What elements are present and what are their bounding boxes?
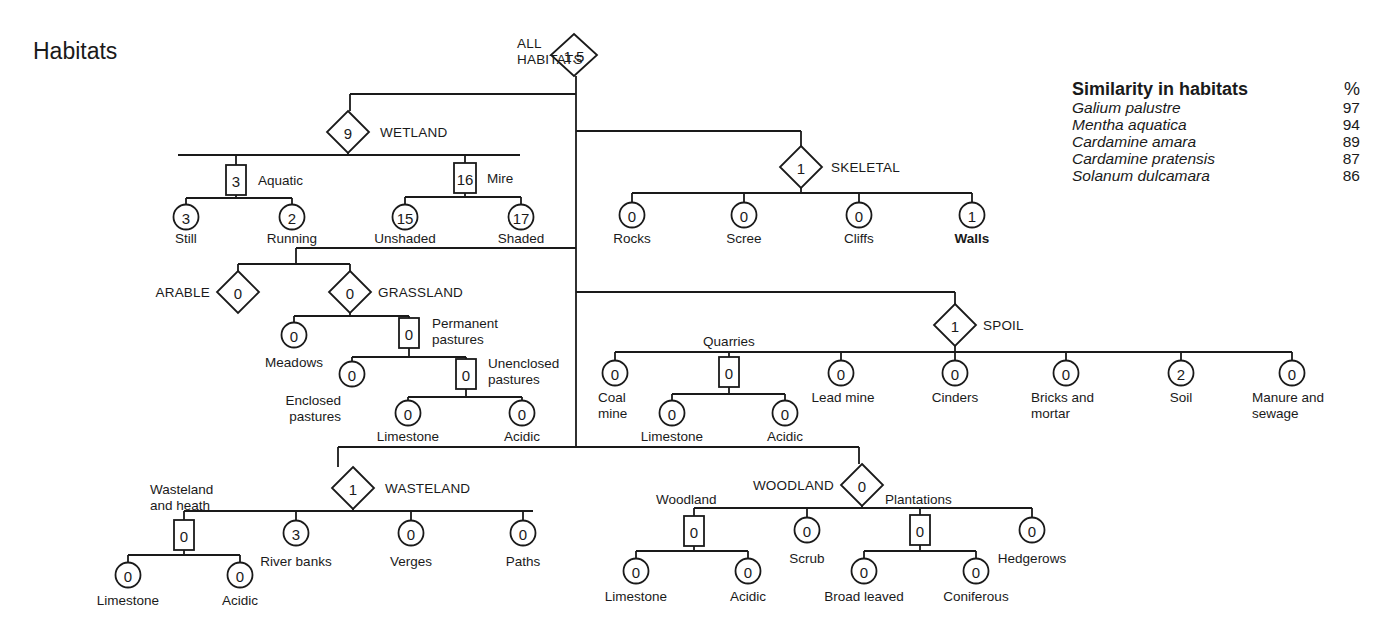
node-value: 0 <box>518 406 526 423</box>
node-coalmine: 0Coalmine <box>598 361 628 422</box>
node-label: Cliffs <box>844 231 874 246</box>
similarity-value: 89 <box>1343 133 1360 150</box>
node-label: Mire <box>487 171 513 186</box>
node-shaded: 17Shaded <box>498 205 545 247</box>
node-label: Woodland <box>656 492 717 507</box>
legend-header: Similarity in habitats % <box>1072 80 1360 99</box>
node-enclosed: 0Enclosedpastures <box>285 362 364 425</box>
node-walls: 1Walls <box>955 203 990 247</box>
node-label: SKELETAL <box>831 160 900 175</box>
node-label: Verges <box>390 554 432 569</box>
node-mire: 16Mire <box>454 163 513 193</box>
node-label: Plantations <box>885 492 952 507</box>
node-skeletal: 1SKELETAL <box>780 146 900 188</box>
node-quarries: 0Quarries <box>703 334 755 387</box>
node-label: Limestone <box>641 429 703 444</box>
legend-row: Galium palustre 97 <box>1072 99 1360 116</box>
node-woodland: 0WOODLAND <box>753 464 883 506</box>
node-label: Quarries <box>703 334 755 349</box>
node-value: 0 <box>860 564 868 581</box>
node-scree: 0Scree <box>726 203 761 247</box>
node-label: Wastelandand heath <box>150 482 213 513</box>
node-label: WOODLAND <box>753 478 834 493</box>
node-value: 0 <box>236 568 244 585</box>
node-value: 2 <box>288 210 296 227</box>
node-value: 0 <box>234 285 242 302</box>
node-label: Limestone <box>377 429 439 444</box>
node-value: 1 <box>951 318 959 335</box>
node-value: 0 <box>690 524 698 541</box>
node-value: 0 <box>725 365 733 382</box>
node-all: 1.5ALLHABITATS <box>517 34 597 76</box>
node-label: Broad leaved <box>824 589 904 604</box>
node-label: Enclosedpastures <box>285 393 341 424</box>
node-value: 0 <box>611 366 619 383</box>
node-label: Scree <box>726 231 761 246</box>
node-q_acidic: 0Acidic <box>767 401 803 445</box>
species-name: Galium palustre <box>1072 99 1181 116</box>
node-soil: 2Soil <box>1169 361 1194 406</box>
node-plantations: 0Plantations <box>885 492 952 545</box>
node-value: 0 <box>916 523 924 540</box>
node-value: 0 <box>744 564 752 581</box>
node-value: 0 <box>124 568 132 585</box>
node-unenclosed: 0Unenclosedpastures <box>456 356 559 389</box>
node-label: River banks <box>260 554 332 569</box>
node-label: Acidic <box>504 429 540 444</box>
node-label: Lead mine <box>811 390 874 405</box>
node-label: Aquatic <box>258 173 303 188</box>
node-scrub: 0Scrub <box>789 518 824 567</box>
node-value: 0 <box>951 366 959 383</box>
node-g_acidic: 0Acidic <box>504 401 540 445</box>
node-value: 0 <box>1288 366 1296 383</box>
legend-unit: % <box>1344 80 1360 99</box>
node-wetland: 9WETLAND <box>327 111 447 153</box>
legend-row: Cardamine amara 89 <box>1072 133 1360 150</box>
node-label: Paths <box>506 554 541 569</box>
node-spoil: 1SPOIL <box>934 304 1024 346</box>
node-value: 0 <box>628 208 636 225</box>
node-value: 16 <box>457 171 474 188</box>
node-value: 3 <box>292 526 300 543</box>
node-label: Limestone <box>605 589 667 604</box>
node-value: 0 <box>1028 523 1036 540</box>
node-riverbanks: 3River banks <box>260 521 332 570</box>
legend-title: Similarity in habitats <box>1072 80 1248 99</box>
node-label: Scrub <box>789 551 824 566</box>
node-value: 0 <box>407 526 415 543</box>
node-label: WETLAND <box>380 125 447 140</box>
node-label: Running <box>267 231 317 246</box>
similarity-value: 94 <box>1343 116 1360 133</box>
node-value: 0 <box>348 367 356 384</box>
node-still: 3Still <box>174 205 199 247</box>
node-label: Bricks andmortar <box>1031 390 1094 421</box>
node-label: Permanentpastures <box>432 316 498 347</box>
node-aquatic: 3Aquatic <box>226 165 303 195</box>
node-wd_acidic: 0Acidic <box>730 559 766 605</box>
node-value: 0 <box>740 208 748 225</box>
node-value: 15 <box>397 210 414 227</box>
node-value: 0 <box>290 328 298 345</box>
node-label: Acidic <box>767 429 803 444</box>
node-label: Meadows <box>265 355 323 370</box>
legend-row: Mentha aquatica 94 <box>1072 116 1360 133</box>
node-value: 0 <box>346 285 354 302</box>
node-label: Unshaded <box>374 231 436 246</box>
node-waste_heath: 0Wastelandand heath <box>150 482 213 550</box>
node-value: 0 <box>180 528 188 545</box>
node-manure: 0Manure andsewage <box>1252 361 1324 422</box>
node-value: 0 <box>1062 366 1070 383</box>
node-label: Manure andsewage <box>1252 390 1324 421</box>
node-rocks: 0Rocks <box>613 203 651 247</box>
node-hedgerows: 0Hedgerows <box>998 518 1067 567</box>
node-woodland_sub: 0Woodland <box>656 492 717 546</box>
node-cinders: 0Cinders <box>932 361 979 406</box>
node-label: Acidic <box>222 593 258 608</box>
node-label: Walls <box>955 231 990 246</box>
node-value: 0 <box>972 564 980 581</box>
node-meadows: 0Meadows <box>265 323 323 371</box>
node-label: Coalmine <box>598 390 627 421</box>
species-name: Cardamine amara <box>1072 133 1196 150</box>
node-value: 0 <box>405 326 413 343</box>
legend-row: Solanum dulcamara 86 <box>1072 167 1360 184</box>
